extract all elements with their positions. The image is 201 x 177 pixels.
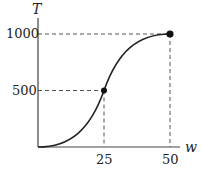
- sigmoid-chart: T 1000 500 25 50 w: [0, 0, 201, 177]
- point-50-1000: [166, 30, 173, 37]
- x-tick-50: 50: [162, 152, 179, 167]
- x-tick-25: 25: [96, 152, 113, 167]
- y-tick-500: 500: [12, 83, 37, 98]
- y-tick-1000: 1000: [6, 26, 39, 41]
- y-axis-label: T: [32, 1, 43, 17]
- axes: [38, 18, 180, 147]
- point-25-500: [101, 88, 107, 94]
- x-axis-label: w: [185, 139, 197, 155]
